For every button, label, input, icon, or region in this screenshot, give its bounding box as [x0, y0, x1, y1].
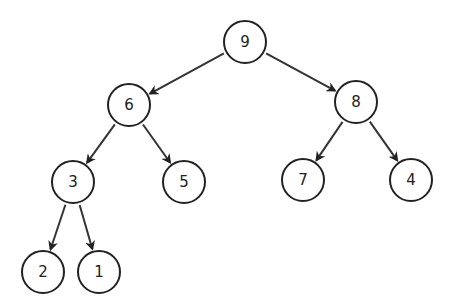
edges-group — [51, 53, 398, 249]
edge-arrow-3-to-1 — [80, 205, 93, 249]
nodes-group: 968357421 — [22, 21, 432, 293]
edge-arrow-6-to-3 — [87, 124, 115, 162]
tree-node-4: 4 — [390, 159, 432, 201]
tree-node-2: 2 — [22, 251, 64, 293]
edge-arrow-8-to-4 — [370, 122, 397, 161]
tree-diagram: 968357421 — [0, 0, 451, 308]
tree-node-7: 7 — [282, 159, 324, 201]
node-label: 5 — [179, 173, 189, 191]
node-label: 7 — [298, 171, 308, 189]
tree-node-1: 1 — [78, 251, 120, 293]
node-label: 8 — [351, 93, 361, 111]
node-label: 3 — [68, 173, 78, 191]
tree-node-3: 3 — [52, 161, 94, 203]
edge-arrow-3-to-2 — [51, 205, 66, 249]
tree-node-9: 9 — [224, 21, 266, 63]
edge-arrow-9-to-6 — [150, 53, 224, 93]
node-label: 2 — [38, 263, 48, 281]
node-label: 6 — [124, 96, 134, 114]
tree-node-8: 8 — [335, 81, 377, 123]
tree-node-5: 5 — [163, 161, 205, 203]
edge-arrow-9-to-8 — [266, 53, 335, 90]
edge-arrow-8-to-7 — [316, 122, 342, 160]
edge-arrow-6-to-5 — [143, 125, 170, 163]
tree-node-6: 6 — [108, 84, 150, 126]
node-label: 1 — [94, 263, 104, 281]
node-label: 4 — [406, 171, 416, 189]
node-label: 9 — [240, 33, 250, 51]
